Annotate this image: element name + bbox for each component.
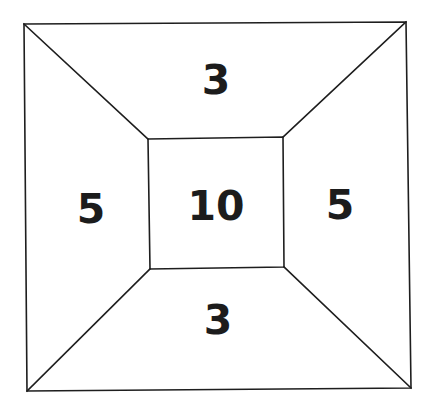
frustum-diagram: 3 5 10 5 3 bbox=[0, 0, 434, 413]
region-left-label: 5 bbox=[77, 185, 106, 233]
region-center-label: 10 bbox=[187, 182, 244, 230]
region-bottom-label: 3 bbox=[204, 296, 233, 344]
region-right-label: 5 bbox=[326, 181, 355, 229]
region-top-label: 3 bbox=[202, 56, 231, 104]
